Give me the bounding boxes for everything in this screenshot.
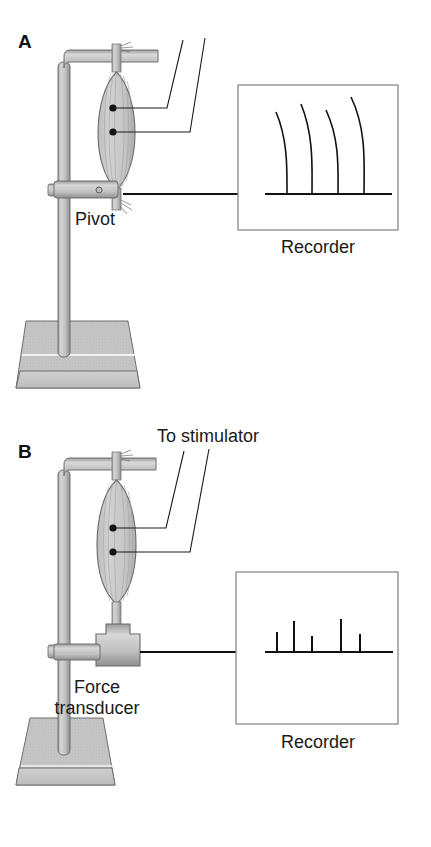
- recorder-box-a: [238, 85, 398, 230]
- panel-a-label: A: [18, 31, 32, 52]
- recorder-box-b: [236, 572, 398, 724]
- top-arm-b: [64, 458, 156, 476]
- muscle-b: [97, 450, 136, 628]
- stand-base-a: [16, 321, 140, 388]
- muscle-experiment-figure: A: [0, 0, 431, 847]
- pivot-label-a: Pivot: [75, 209, 115, 229]
- recorder-label-a: Recorder: [281, 237, 355, 257]
- pivot-lever-a: [48, 181, 118, 198]
- force-transducer-label-line1: Force: [74, 677, 120, 697]
- force-transducer-label-line2: transducer: [54, 698, 139, 718]
- top-arm-a: [60, 50, 160, 68]
- panel-b: B To stimulator: [16, 426, 398, 785]
- panel-a: A: [16, 31, 398, 388]
- to-stimulator-label: To stimulator: [157, 426, 259, 446]
- recorder-label-b: Recorder: [281, 732, 355, 752]
- stand-rod-a: [58, 62, 70, 357]
- panel-b-label: B: [18, 441, 32, 462]
- pivot-point-a: [96, 187, 102, 193]
